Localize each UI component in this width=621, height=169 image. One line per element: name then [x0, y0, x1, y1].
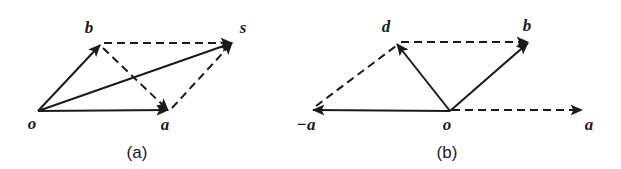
label-point-o: o: [443, 115, 452, 134]
edge-minus-a-to-d: [316, 46, 396, 106]
caption-panel-a: (a): [127, 143, 148, 162]
edge-o-to-a: [38, 110, 168, 111]
label-point-d: d: [382, 17, 391, 36]
label-point-a: a: [161, 115, 170, 134]
edge-o-to-b: [450, 43, 528, 111]
vector-addition-subtraction-figure: o a b s (a) o −a a d b (b): [0, 0, 621, 169]
edge-b-to-a: [103, 48, 168, 110]
label-point-b: b: [523, 16, 532, 35]
panel-b-edges: [313, 42, 582, 111]
panel-a-edges: [38, 43, 232, 111]
panel-b: o −a a d b (b): [297, 16, 594, 162]
panel-a: o a b s (a): [28, 18, 247, 162]
caption-panel-b: (b): [437, 143, 458, 162]
edge-o-to-d: [397, 44, 450, 111]
edge-o-to-minus-a: [313, 110, 450, 111]
label-point-b: b: [85, 18, 94, 37]
label-point-o: o: [28, 114, 37, 133]
label-point-minus-a: −a: [297, 115, 316, 134]
label-point-s: s: [239, 18, 247, 37]
edge-o-to-s: [38, 43, 232, 111]
label-point-a: a: [585, 115, 594, 134]
panel-b-labels: o −a a d b: [297, 16, 594, 134]
